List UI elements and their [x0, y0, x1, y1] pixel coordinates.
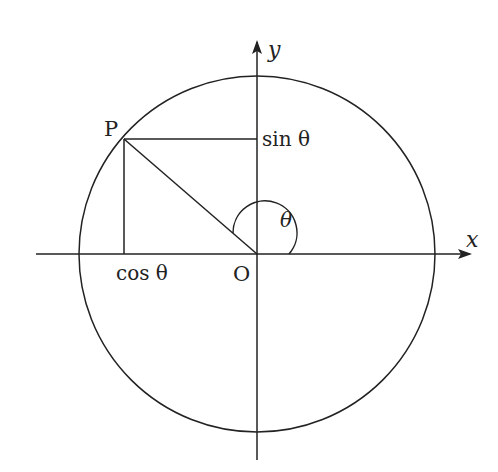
origin-label: O: [233, 262, 250, 286]
point-p-label: P: [104, 117, 118, 141]
y-axis-label: y: [267, 37, 281, 62]
unit-circle-diagram: y x P O sin θ cos θ θ: [0, 0, 498, 472]
cos-label: cos θ: [116, 261, 168, 285]
radius-op: [124, 139, 257, 254]
angle-theta-label: θ: [280, 208, 292, 232]
sin-label: sin θ: [262, 127, 310, 151]
x-axis-label: x: [466, 227, 479, 252]
